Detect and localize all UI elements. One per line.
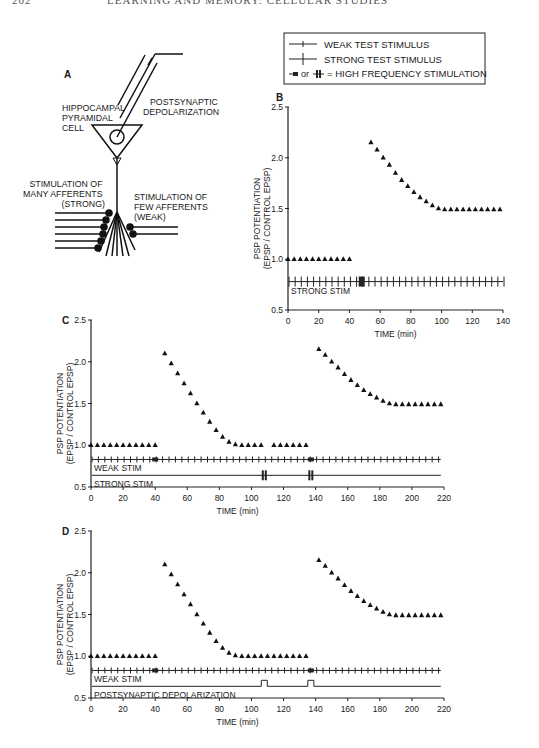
data-point (405, 183, 410, 188)
x-tick-label: 140 (496, 316, 510, 326)
data-point (188, 390, 193, 395)
x-tick-label: 0 (89, 493, 94, 503)
data-point (114, 653, 119, 658)
data-point (127, 442, 132, 447)
data-point (424, 198, 429, 203)
data-point (380, 609, 385, 614)
y-axis-label: (EPSP / CONTROL EPSP) (65, 363, 75, 465)
data-point (497, 207, 502, 212)
data-point (438, 612, 443, 617)
x-tick-label: 80 (215, 704, 225, 714)
y-tick-label: 1.5 (74, 610, 86, 620)
data-point (220, 645, 225, 650)
x-tick-label: 120 (276, 493, 290, 503)
x-tick-label: 140 (309, 493, 323, 503)
data-point (491, 207, 496, 212)
data-point (329, 359, 334, 364)
x-tick-label: 40 (150, 493, 160, 503)
y-tick-label: 2.5 (74, 526, 86, 536)
strong-afferents-icon (55, 210, 112, 251)
y-tick-label: 0.5 (74, 693, 86, 703)
data-point (201, 621, 206, 626)
data-point (285, 256, 290, 261)
x-tick-label: 100 (434, 316, 448, 326)
data-point (108, 653, 113, 658)
strong-label-line-1: STIMULATION OF (29, 179, 103, 189)
data-point (348, 588, 353, 593)
data-point (393, 401, 398, 406)
data-point (485, 207, 490, 212)
stim-line-label: WEAK STIM (94, 674, 142, 684)
data-point (133, 653, 138, 658)
legend-hfs-label: = HIGH FREQUENCY STIMULATION (327, 68, 487, 79)
data-point (175, 581, 180, 586)
data-point (88, 442, 93, 447)
data-point (252, 653, 257, 658)
data-point (194, 612, 199, 617)
data-point (108, 442, 113, 447)
data-point (233, 652, 238, 657)
data-point (387, 162, 392, 167)
data-point (347, 256, 352, 261)
data-point (399, 177, 404, 182)
data-point (239, 653, 244, 658)
electrode-label: POSTSYNAPTIC DEPOLARIZATION (143, 97, 220, 117)
data-point (341, 256, 346, 261)
y-tick-label: 1.0 (74, 440, 86, 450)
data-point (291, 442, 296, 447)
data-point (133, 442, 138, 447)
stim-line-label: WEAK STIM (94, 463, 142, 473)
legend-or: or (301, 69, 309, 79)
data-point (120, 442, 125, 447)
x-tick-label: 20 (314, 316, 324, 326)
data-point (454, 207, 459, 212)
data-point (406, 612, 411, 617)
data-point (432, 612, 437, 617)
data-point (278, 442, 283, 447)
hfs-marker (152, 668, 158, 672)
data-point (316, 557, 321, 562)
y-tick-label: 0.5 (271, 305, 283, 315)
data-point (284, 653, 289, 658)
data-point (169, 360, 174, 365)
y-tick-label: 2.0 (74, 357, 86, 367)
data-point (413, 612, 418, 617)
data-point (473, 207, 478, 212)
data-point (101, 653, 106, 658)
data-point (162, 350, 167, 355)
x-tick-label: 100 (244, 493, 258, 503)
data-point (188, 601, 193, 606)
data-point (438, 401, 443, 406)
data-point (214, 427, 219, 432)
x-tick-label: 80 (215, 493, 225, 503)
x-tick-label: 40 (345, 316, 355, 326)
data-point (304, 256, 309, 261)
data-point (432, 401, 437, 406)
data-point (284, 442, 289, 447)
hfs-marker (311, 470, 313, 480)
data-point (425, 401, 430, 406)
data-point (181, 380, 186, 385)
x-tick-label: 20 (118, 493, 128, 503)
data-point (175, 370, 180, 375)
data-point (342, 371, 347, 376)
y-tick-label: 2.0 (74, 568, 86, 578)
data-point (419, 401, 424, 406)
panel-letter: D (62, 526, 69, 537)
x-tick-label: 220 (437, 704, 451, 714)
data-point (207, 419, 212, 424)
data-point (406, 401, 411, 406)
y-axis-label: PSP POTENTIATION (55, 584, 65, 665)
data-point (368, 391, 373, 396)
data-point (220, 434, 225, 439)
data-point (291, 653, 296, 658)
strong-label-line-3: (STRONG) (62, 199, 106, 209)
data-point (355, 382, 360, 387)
y-tick-label: 2.0 (271, 153, 283, 163)
data-point (88, 653, 93, 658)
x-tick-label: 160 (341, 493, 355, 503)
data-point (342, 582, 347, 587)
x-tick-label: 80 (406, 316, 416, 326)
data-point (479, 207, 484, 212)
data-point (393, 612, 398, 617)
